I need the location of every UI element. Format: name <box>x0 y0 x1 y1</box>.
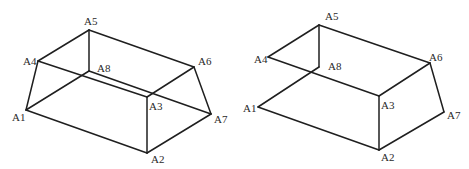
edge-a8-a1 <box>258 67 319 107</box>
vertex-label-a2: A2 <box>381 151 394 163</box>
vertex-label-a7: A7 <box>447 109 461 121</box>
vertex-label-a7: A7 <box>214 113 228 125</box>
left-polyhedron-figure: A5A4A8A6A3A1A7A2 <box>12 15 228 165</box>
edge-a1-a2 <box>258 107 379 150</box>
vertex-label-a3: A3 <box>381 99 395 111</box>
vertex-label-a8: A8 <box>97 62 111 74</box>
edge-a2-a7 <box>379 112 444 150</box>
edge-a6-a3 <box>379 63 430 96</box>
vertex-label-a2: A2 <box>151 153 164 165</box>
right-polyhedron-figure: A5A4A8A6A3A1A7A2 <box>243 10 461 163</box>
vertex-label-a1: A1 <box>243 102 256 114</box>
edge-a7-a2 <box>147 114 211 153</box>
polyhedron-diagram: A5A4A8A6A3A1A7A2 A5A4A8A6A3A1A7A2 <box>0 0 469 169</box>
edge-a2-a1 <box>26 110 147 153</box>
vertex-label-a1: A1 <box>12 111 25 123</box>
vertex-label-a5: A5 <box>84 15 98 27</box>
vertex-label-a6: A6 <box>198 55 212 67</box>
vertex-label-a5: A5 <box>325 10 339 22</box>
vertex-label-a8: A8 <box>328 60 342 72</box>
edge-a3-a6 <box>147 67 194 97</box>
edge-a1-a8 <box>26 71 89 110</box>
vertex-label-a3: A3 <box>149 100 163 112</box>
edge-a4-a5 <box>38 30 89 61</box>
vertex-label-a6: A6 <box>429 51 443 63</box>
edge-a5-a6 <box>319 25 430 63</box>
edge-a7-a6 <box>430 63 444 112</box>
edge-a1-a4 <box>26 61 38 110</box>
edge-a6-a7 <box>194 67 211 114</box>
vertex-label-a4: A4 <box>254 53 268 65</box>
vertex-label-a4: A4 <box>23 55 37 67</box>
edge-a4-a5 <box>268 25 319 57</box>
